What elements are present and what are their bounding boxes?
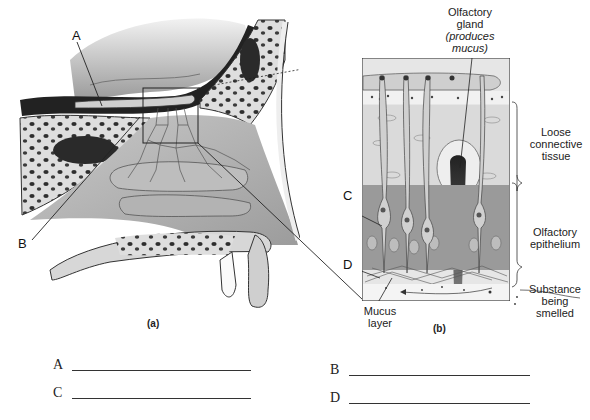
label-b: B [18,236,27,251]
answer-letter-d: D [330,390,340,406]
answer-row-c[interactable]: C [53,385,251,401]
substance-line1: Substance [520,283,590,295]
olfactory-epithelium-label: Olfactory epithelium [520,226,590,250]
answer-letter-a: A [53,357,63,373]
olfactory-gland-line4: mucus) [430,42,510,54]
olfactory-gland-line2: gland [430,18,510,30]
loose-connective-line3: tissue [522,150,590,162]
answer-letter-c: C [53,385,62,401]
panel-b-illustration [362,58,510,301]
answer-row-d[interactable]: D [330,390,530,406]
label-c: C [343,188,352,203]
panel-b-caption: (b) [433,323,446,334]
substance-being-smelled-label: Substance being smelled [520,283,590,319]
label-a: A [72,28,81,43]
brace-loose-connective [512,102,522,191]
olfactory-epithelium-drawing [362,58,510,301]
mucus-line1: Mucus [355,305,405,317]
answer-row-a[interactable]: A [53,357,251,373]
panel-a-caption: (a) [147,318,159,329]
answer-blank-c[interactable] [72,398,251,399]
label-d: D [343,257,352,272]
olfactory-epithelium-line1: Olfactory [520,226,590,238]
answer-blank-a[interactable] [72,370,251,371]
answer-letter-b: B [330,362,339,378]
olfactory-gland-line1: Olfactory [430,6,510,18]
answer-blank-d[interactable] [349,403,530,404]
substance-line3: smelled [520,307,590,319]
loose-connective-line1: Loose [522,126,590,138]
nasal-cavity-drawing [0,0,300,310]
substance-line2: being [520,295,590,307]
olfactory-epithelium-line2: epithelium [520,238,590,250]
mucus-layer-label: Mucus layer [355,305,405,329]
panel-a-illustration [0,0,300,310]
olfactory-gland-line3: (produces [430,30,510,42]
loose-connective-tissue-label: Loose connective tissue [522,126,590,162]
loose-connective-line2: connective [522,138,590,150]
answer-blank-b[interactable] [349,375,530,376]
mucus-line2: layer [355,317,405,329]
answer-row-b[interactable]: B [330,362,530,378]
olfactory-gland-label: Olfactory gland (produces mucus) [430,6,510,54]
